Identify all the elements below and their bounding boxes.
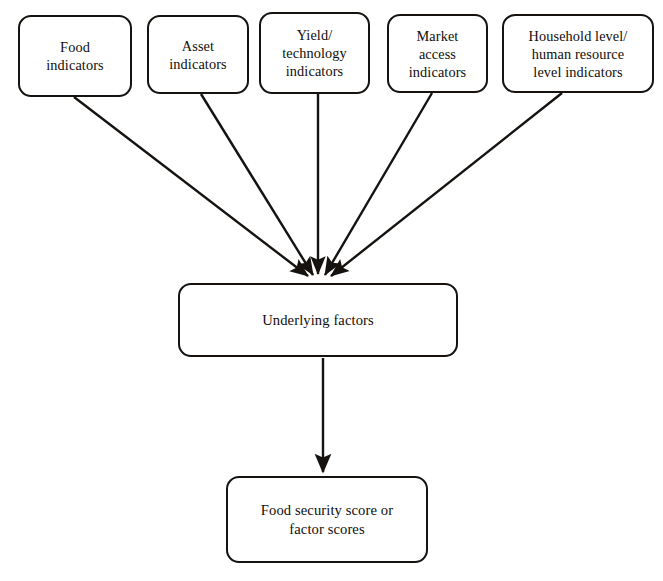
node-food-security-score[interactable]: Food security score or factor scores bbox=[226, 476, 428, 563]
node-asset-indicators[interactable]: Asset indicators bbox=[147, 15, 249, 94]
node-asset-indicators-label: Asset indicators bbox=[169, 37, 226, 73]
converging-edge-group bbox=[74, 93, 562, 276]
node-food-indicators[interactable]: Food indicators bbox=[18, 15, 132, 97]
edge-market-to-underlying bbox=[325, 93, 432, 275]
edge-household-to-underlying bbox=[331, 93, 562, 276]
node-underlying-factors[interactable]: Underlying factors bbox=[178, 283, 458, 357]
node-household-human-resource-indicators-label: Household level/ human resource level in… bbox=[529, 27, 628, 81]
node-household-human-resource-indicators[interactable]: Household level/ human resource level in… bbox=[502, 14, 654, 93]
node-underlying-factors-label: Underlying factors bbox=[262, 311, 374, 329]
edge-food-to-underlying bbox=[74, 97, 308, 276]
node-market-access-indicators[interactable]: Market access indicators bbox=[387, 14, 488, 93]
edge-asset-to-underlying bbox=[201, 94, 313, 275]
flow-diagram: Food indicators Asset indicators Yield/ … bbox=[0, 0, 663, 581]
node-market-access-indicators-label: Market access indicators bbox=[409, 27, 466, 81]
node-yield-technology-indicators-label: Yield/ technology indicators bbox=[282, 26, 347, 80]
node-food-security-score-label: Food security score or factor scores bbox=[261, 501, 393, 539]
node-yield-technology-indicators[interactable]: Yield/ technology indicators bbox=[259, 12, 370, 94]
node-food-indicators-label: Food indicators bbox=[46, 38, 103, 74]
